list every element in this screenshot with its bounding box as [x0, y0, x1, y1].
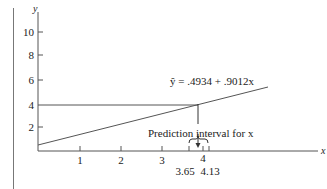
x-tick-label: 2 — [118, 154, 124, 166]
y-tick-label: 4 — [29, 99, 35, 111]
interval-upper-label: 4.13 — [200, 165, 220, 177]
y-tick-label: 10 — [23, 26, 35, 38]
y-tick-label: 8 — [29, 49, 35, 61]
interval-caption: Prediction interval for x — [148, 127, 254, 139]
y-ticks — [38, 32, 43, 127]
interval-lower-label: 3.65 — [175, 165, 195, 177]
y-tick-label: 2 — [29, 121, 35, 133]
x-tick-label: 1 — [77, 154, 83, 166]
equation-label: ŷ = .4934 + .9012x — [170, 75, 254, 87]
y-axis-label: y — [32, 3, 38, 14]
x-tick-label: 4 — [200, 152, 206, 164]
x-axis-label: x — [320, 145, 326, 156]
arrow-down-icon — [196, 143, 201, 148]
x-ticks — [80, 146, 203, 151]
calibration-chart: y 10 8 6 4 2 1 2 3 4 x ŷ = .4934 + .9012… — [0, 0, 327, 189]
x-tick-label: 3 — [159, 154, 165, 166]
y-tick-label: 6 — [29, 74, 35, 86]
